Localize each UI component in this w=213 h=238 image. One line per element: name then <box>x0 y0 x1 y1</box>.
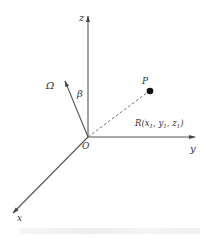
point-p-label: P <box>141 76 149 86</box>
y-axis-label: y <box>189 143 196 154</box>
faint-caption-residue <box>20 228 200 234</box>
pv-prefix: R( <box>134 118 145 128</box>
point-p <box>147 88 154 95</box>
coordinate-diagram: z y x Ω β P R(x1, y1, z1) O <box>0 0 213 238</box>
x-axis <box>13 137 88 213</box>
position-vector-dashed <box>88 92 148 137</box>
z-axis-label: z <box>78 12 85 23</box>
pv-suffix: ) <box>179 118 183 128</box>
position-vector-label: R(x1, y1, z1) <box>134 118 183 129</box>
x-axis-label: x <box>17 213 22 223</box>
beta-label: β <box>76 88 83 99</box>
origin-label: O <box>82 141 90 151</box>
omega-label: Ω <box>45 80 54 91</box>
